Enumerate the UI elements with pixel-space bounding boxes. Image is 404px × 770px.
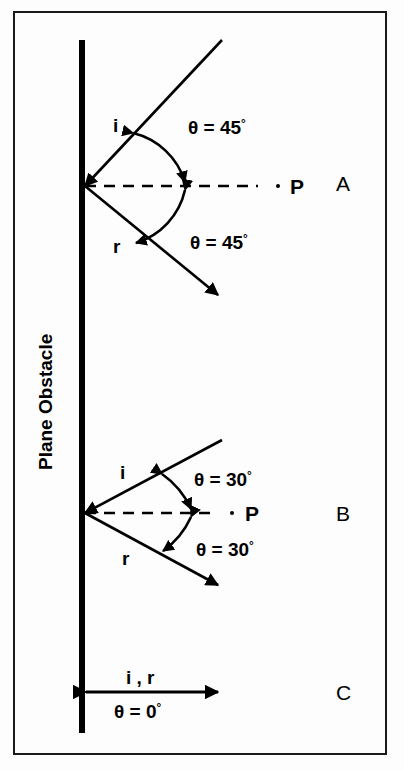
normal-dot-a	[276, 184, 280, 188]
angle-reflection-value-b: θ = 30	[196, 539, 249, 560]
angle-reflection-value-a: θ = 45	[190, 232, 243, 253]
angle-incidence-value-b: θ = 30	[194, 469, 247, 490]
reflected-ray-label-a: r	[113, 237, 120, 256]
normal-point-label-b: P	[245, 503, 259, 524]
incident-ray-label-b: i	[120, 463, 125, 482]
angle-value-c: θ = 0	[114, 701, 157, 722]
angle-incidence-label-a: θ = 45°	[188, 118, 246, 137]
normal-dot-b	[230, 511, 234, 515]
degree-symbol-c: °	[157, 700, 162, 713]
angle-arc-reflection-b	[163, 517, 191, 551]
angle-arc-incidence-b	[162, 474, 191, 509]
angle-reflection-label-a: θ = 45°	[190, 233, 248, 252]
angle-reflection-label-b: θ = 30°	[196, 540, 254, 559]
degree-symbol-incidence-a: °	[241, 116, 246, 129]
plane-obstacle-label: Plane Obstacle	[36, 334, 55, 470]
normal-point-label-a: P	[290, 176, 304, 197]
angle-label-c: θ = 0°	[114, 702, 161, 721]
panel-letter-c: C	[336, 682, 351, 703]
ray-diagram-graphics	[0, 0, 404, 770]
angle-arc-incidence-a	[133, 133, 185, 182]
degree-symbol-incidence-b: °	[247, 468, 252, 481]
incident-ray-a	[85, 40, 222, 186]
incident-ray-label-a: i	[113, 116, 118, 135]
angle-incidence-label-b: θ = 30°	[194, 470, 252, 489]
degree-symbol-reflection-a: °	[243, 231, 248, 244]
panel-letter-a: A	[336, 173, 350, 194]
panel-letter-b: B	[336, 503, 350, 524]
degree-symbol-reflection-b: °	[249, 538, 254, 551]
reflected-ray-label-b: r	[122, 549, 129, 568]
figure-canvas: Plane Obstacle i r P θ = 45° θ = 45° A i…	[0, 0, 404, 770]
angle-incidence-value-a: θ = 45	[188, 117, 241, 138]
ray-label-c: i , r	[126, 668, 155, 687]
